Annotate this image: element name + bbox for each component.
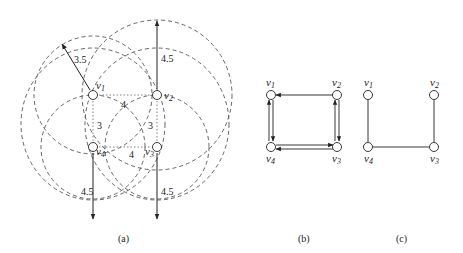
node-label-v2: v2 xyxy=(332,76,341,90)
node-v2 xyxy=(333,91,342,100)
distance-label-v1-v2: 4 xyxy=(121,99,126,110)
node-label-v2: v2 xyxy=(164,89,173,103)
panel-a: 3.5 4.5 4.5 4.5 4 4 3 3 v1 v2 v4 v3 (a) xyxy=(21,20,232,245)
caption-c: (c) xyxy=(396,233,407,245)
radius-label-v3: 4.5 xyxy=(161,186,174,197)
radius-label-v1: 3.5 xyxy=(74,54,87,65)
radius-arrow-v1 xyxy=(62,44,90,90)
node-v2 xyxy=(153,91,162,100)
node-v3 xyxy=(430,143,439,152)
node-v4 xyxy=(364,143,373,152)
node-v2 xyxy=(430,91,439,100)
caption-b: (b) xyxy=(298,233,310,245)
figure: 3.5 4.5 4.5 4.5 4 4 3 3 v1 v2 v4 v3 (a) xyxy=(0,0,463,253)
distance-label-v2-v3: 3 xyxy=(148,120,153,131)
node-label-v2: v2 xyxy=(430,76,439,90)
node-label-v4: v4 xyxy=(364,152,373,166)
node-v1 xyxy=(89,91,98,100)
distance-label-v4-v3: 4 xyxy=(129,149,134,160)
node-label-v1: v1 xyxy=(364,76,373,90)
node-v1 xyxy=(364,91,373,100)
node-label-v1: v1 xyxy=(96,79,105,93)
node-v3 xyxy=(333,143,342,152)
node-label-v1: v1 xyxy=(266,76,275,90)
caption-a: (a) xyxy=(118,233,129,245)
node-label-v4: v4 xyxy=(266,152,275,166)
radius-label-v4: 4.5 xyxy=(81,186,94,197)
panel-c: v1 v2 v4 v3 (c) xyxy=(364,76,439,245)
panel-b: v1 v2 v4 v3 (b) xyxy=(266,76,342,245)
node-v1 xyxy=(267,91,276,100)
node-v4 xyxy=(267,143,276,152)
distance-label-v1-v4: 3 xyxy=(97,120,102,131)
node-label-v3: v3 xyxy=(430,152,439,166)
radius-label-v2: 4.5 xyxy=(161,53,174,64)
node-label-v3: v3 xyxy=(332,152,341,166)
